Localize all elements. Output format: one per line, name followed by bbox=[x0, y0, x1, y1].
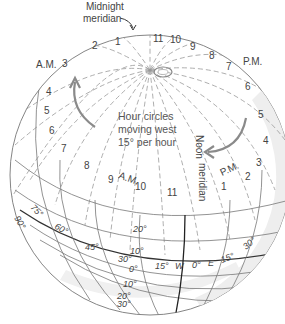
midnight-label-1: Midnight bbox=[86, 1, 124, 12]
hour-label: 10 bbox=[170, 34, 182, 45]
noon-label-1: Noon bbox=[194, 135, 205, 159]
midnight-label-2: meridian bbox=[83, 13, 121, 24]
latitude-label: 30° bbox=[117, 299, 131, 309]
pm-label: P.M. bbox=[243, 56, 262, 67]
hour-label: 7 bbox=[61, 143, 67, 154]
hour-label: 9 bbox=[190, 41, 196, 52]
hour-label: 2 bbox=[245, 171, 251, 182]
am-label: A.M. bbox=[36, 59, 57, 70]
globe-diagram: Midnight meridian A.M. P.M. 1 2 3 4 5 6 … bbox=[0, 0, 285, 324]
hour-label: 8 bbox=[209, 50, 215, 61]
hour-label: 6 bbox=[49, 125, 55, 136]
latitude-label: 20° bbox=[132, 224, 147, 234]
latitude-label: 10° bbox=[123, 279, 137, 289]
hour-label: 4 bbox=[46, 86, 52, 97]
caption-line-1: Hour circles bbox=[118, 110, 173, 122]
hour-label: 11 bbox=[153, 33, 164, 44]
hour-label: 4 bbox=[263, 135, 269, 146]
hour-label: 1 bbox=[115, 36, 121, 47]
hour-label: 3 bbox=[62, 58, 68, 69]
hour-label: 11 bbox=[167, 187, 178, 198]
longitude-label: 0° bbox=[192, 260, 201, 270]
longitude-direction-e: E bbox=[208, 258, 215, 268]
longitude-label: 15° bbox=[155, 261, 169, 271]
caption-line-2: moving west bbox=[118, 123, 176, 135]
latitude-label: 10° bbox=[130, 246, 144, 256]
noon-label-2: meridian bbox=[197, 163, 208, 201]
latitude-label: 0° bbox=[129, 264, 138, 274]
longitude-label: 45° bbox=[85, 242, 99, 252]
hour-label: 3 bbox=[256, 157, 262, 168]
hour-label: 8 bbox=[84, 160, 90, 171]
hour-label: 2 bbox=[92, 40, 98, 51]
hour-label: 1 bbox=[221, 181, 227, 192]
hour-label: 6 bbox=[245, 81, 251, 92]
caption-line-3: 15° per hour bbox=[118, 136, 176, 148]
celestial-hour-circles-diagram: Midnight meridian A.M. P.M. 1 2 3 4 5 6 … bbox=[0, 0, 285, 324]
hour-label: 5 bbox=[44, 105, 50, 116]
hour-label: 7 bbox=[226, 61, 232, 72]
hour-label: 9 bbox=[108, 174, 114, 185]
hour-label: 5 bbox=[258, 109, 264, 120]
